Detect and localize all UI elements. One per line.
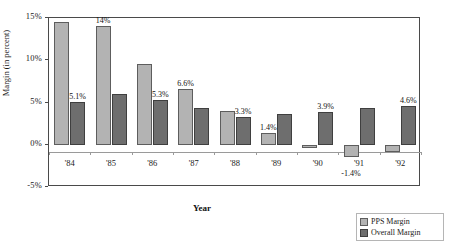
legend-label-overall: Overall Margin [371,227,420,238]
x-axis-tick-mark [338,152,339,155]
legend-swatch-icon-overall [360,229,368,237]
legend-item-overall-margin: Overall Margin [360,227,440,238]
bar-pps-84 [54,22,69,145]
bar-overall-85 [112,94,127,145]
x-axis-tick-mark [256,152,257,155]
legend-item-pps-margin: PPS Margin [360,216,440,227]
bar-value-label: 5.3% [145,90,175,99]
y-axis-tick-label: 5% [8,97,42,106]
x-axis-tick-mark [421,152,422,155]
y-axis-tick-label: -5% [8,181,42,190]
chart-legend: PPS Margin Overall Margin [356,213,444,241]
x-axis-tick-mark [173,152,174,155]
legend-swatch-icon-pps [360,218,368,226]
x-axis-tick-mark [297,152,298,155]
x-axis-category-label: '90 [298,158,338,168]
bar-pps-92 [385,145,400,152]
bar-overall-89 [277,114,292,144]
bar-overall-84 [70,102,85,145]
x-axis-tick-mark [214,152,215,155]
y-axis-tick-label: 10% [8,54,42,63]
bar-pps-85 [96,26,111,144]
bar-value-label: -1.4% [336,169,366,178]
x-axis-category-label: '92 [380,158,420,168]
x-axis-category-label: '88 [215,158,255,168]
x-axis-category-label: '85 [91,158,131,168]
x-axis-title: Year [172,203,232,213]
x-axis-category-label: '91 [339,158,379,168]
bar-overall-92 [401,106,416,145]
bar-pps-88 [220,111,235,145]
x-axis-tick-mark [49,152,50,155]
bar-overall-87 [194,108,209,144]
bar-value-label: 6.6% [171,79,201,88]
bar-pps-86 [137,64,152,145]
bar-pps-91 [344,145,359,157]
bar-overall-90 [318,112,333,145]
zero-baseline [49,152,421,153]
x-axis-category-label: '84 [50,158,90,168]
legend-label-pps: PPS Margin [371,216,410,227]
x-axis-tick-mark [132,152,133,155]
bar-pps-87 [178,89,193,145]
x-axis-tick-mark [380,152,381,155]
x-axis-tick-mark [90,152,91,155]
bar-value-label: 14% [88,16,118,25]
bar-overall-91 [360,108,375,144]
bar-overall-86 [153,100,168,145]
bar-value-label: 3.3% [228,107,258,116]
y-axis-tick-mark [45,186,48,187]
x-axis-category-label: '87 [174,158,214,168]
y-axis-tick-label: 15% [8,12,42,21]
bar-pps-90 [302,145,317,148]
bar-value-label: 3.9% [311,102,341,111]
bar-overall-88 [236,117,251,145]
y-axis-tick-label: 0% [8,139,42,148]
x-axis-category-label: '89 [256,158,296,168]
bar-pps-89 [261,133,276,145]
plot-area: 5.1%14%5.3%6.6%3.3%1.4%3.9%-1.4%4.6% '84… [48,17,420,186]
bar-chart: Margin (in percent) 15%10%5%0%-5% 5.1%14… [0,0,449,243]
bar-value-label: 4.6% [393,96,423,105]
x-axis-category-label: '86 [132,158,172,168]
bar-value-label: 5.1% [63,92,93,101]
